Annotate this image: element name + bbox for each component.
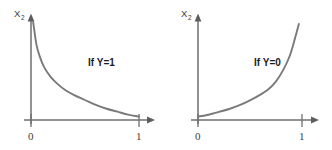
x-tick-label-one-left: 1	[136, 130, 142, 142]
annotation-if-y-equals-0: If Y=0	[254, 57, 281, 68]
x-axis-left	[24, 117, 155, 124]
y-axis-label-left: X 2	[14, 8, 25, 21]
curve-cost-y0	[198, 24, 299, 117]
y-axis-right	[195, 14, 202, 125]
annotation-if-y-equals-1: If Y=1	[88, 57, 115, 68]
x-tick-label-one-right: 1	[299, 130, 305, 142]
chart-panel-if-y-equals-1: X 2 0 1 If Y=1	[0, 0, 166, 150]
svg-text:2: 2	[21, 14, 25, 21]
svg-text:2: 2	[188, 14, 192, 21]
figure-root: X 2 0 1 If Y=1	[0, 0, 332, 150]
x-tick-label-zero-right: 0	[195, 130, 201, 142]
x-axis-right	[191, 117, 319, 124]
svg-text:X: X	[181, 8, 188, 19]
svg-text:X: X	[14, 8, 21, 19]
y-axis-label-right: X 2	[181, 8, 192, 21]
x-tick-label-zero-left: 0	[28, 130, 34, 142]
chart-panel-if-y-equals-0: X 2 0 1 If Y=0	[166, 0, 332, 150]
curve-cost-y1	[33, 22, 139, 117]
